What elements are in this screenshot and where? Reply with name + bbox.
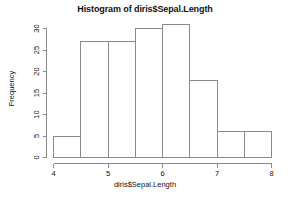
histogram-bar [163, 24, 190, 157]
x-tick-label: 5 [106, 169, 110, 178]
y-tick-label: 0 [32, 155, 41, 159]
y-tick-label: 10 [32, 110, 41, 118]
bars-group [54, 24, 272, 157]
histogram-bar [108, 41, 135, 157]
histogram-plot: Histogram of diris$Sepal.Length 45678 05… [0, 0, 290, 202]
histogram-bar [54, 136, 81, 158]
histogram-bar [81, 41, 108, 157]
histogram-bar [217, 132, 244, 158]
x-tick-label: 4 [51, 169, 55, 178]
x-tick-label: 8 [269, 169, 273, 178]
histogram-bar [190, 80, 217, 157]
y-tick-label: 15 [32, 89, 41, 97]
y-axis-label: Frequency [7, 54, 16, 124]
histogram-bar [244, 132, 271, 158]
x-axis-label: diris$Sepal.Length [0, 180, 290, 189]
y-tick-label: 25 [32, 46, 41, 54]
y-tick-label: 20 [32, 67, 41, 75]
x-tick-label: 6 [160, 169, 164, 178]
y-tick-label: 5 [32, 134, 41, 138]
y-axis: 051015202530 [32, 24, 47, 159]
y-tick-label: 30 [32, 24, 41, 32]
x-axis: 45678 [51, 164, 273, 179]
chart-canvas: 45678 051015202530 [0, 0, 290, 202]
histogram-bar [135, 29, 162, 158]
x-tick-label: 7 [215, 169, 219, 178]
